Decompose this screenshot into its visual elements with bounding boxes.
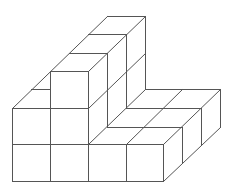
cube-edge [89,17,146,72]
cube-edge [13,17,108,109]
ridge-right-face-edges [89,17,146,145]
front-face-edges [13,72,164,182]
cube-stack-diagram [0,0,231,189]
cube-edge [127,90,183,145]
cube-edge [89,90,146,145]
ridge-top-edges [13,17,146,109]
cube-edge [89,54,146,109]
